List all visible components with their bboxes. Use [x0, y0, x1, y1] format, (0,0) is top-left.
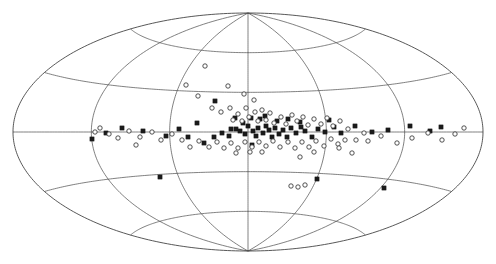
data-point-open-circle — [290, 113, 294, 117]
data-point-open-circle — [314, 139, 318, 143]
data-point-open-circle — [250, 145, 254, 149]
data-point-filled-square — [213, 99, 217, 103]
data-point-open-circle — [298, 155, 302, 159]
data-point-open-circle — [253, 110, 257, 114]
scatter-points-group — [90, 64, 466, 190]
data-point-filled-square — [243, 132, 247, 136]
graticule-group — [13, 13, 483, 251]
data-point-open-circle — [379, 134, 383, 138]
data-point-filled-square — [303, 129, 307, 133]
data-point-open-circle — [462, 126, 466, 130]
data-point-open-circle — [196, 94, 200, 98]
data-point-open-circle — [271, 139, 275, 143]
all-sky-map-canvas — [0, 0, 496, 264]
data-point-filled-square — [229, 127, 233, 131]
data-point-filled-square — [251, 129, 255, 133]
data-point-open-circle — [228, 106, 232, 110]
data-point-open-circle — [231, 118, 235, 122]
data-point-open-circle — [256, 119, 260, 123]
data-point-open-circle — [215, 140, 219, 144]
data-point-filled-square — [195, 121, 199, 125]
data-point-open-circle — [98, 126, 102, 130]
data-point-open-circle — [248, 150, 252, 154]
data-point-filled-square — [408, 124, 412, 128]
data-point-open-circle — [247, 115, 251, 119]
data-point-filled-square — [177, 127, 181, 131]
data-point-open-circle — [210, 106, 214, 110]
data-point-open-circle — [150, 130, 154, 134]
data-point-open-circle — [244, 106, 248, 110]
data-point-filled-square — [353, 124, 357, 128]
data-point-open-circle — [243, 140, 247, 144]
data-point-open-circle — [159, 138, 163, 142]
data-point-filled-square — [323, 130, 327, 134]
data-point-open-circle — [107, 132, 111, 136]
data-point-open-circle — [138, 135, 142, 139]
data-point-open-circle — [240, 119, 244, 123]
data-point-filled-square — [212, 135, 216, 139]
data-point-filled-square — [234, 127, 238, 131]
data-point-filled-square — [246, 124, 250, 128]
data-point-filled-square — [261, 131, 265, 135]
data-point-open-circle — [134, 143, 138, 147]
data-point-filled-square — [439, 125, 443, 129]
data-point-open-circle — [272, 121, 276, 125]
data-point-open-circle — [319, 122, 323, 126]
data-point-open-circle — [325, 116, 329, 120]
data-point-open-circle — [286, 140, 290, 144]
data-point-open-circle — [284, 122, 288, 126]
data-point-filled-square — [264, 124, 268, 128]
data-point-open-circle — [295, 119, 299, 123]
data-point-filled-square — [382, 186, 386, 190]
data-point-filled-square — [90, 137, 94, 141]
data-point-open-circle — [203, 64, 207, 68]
data-point-filled-square — [256, 126, 260, 130]
data-point-open-circle — [312, 117, 316, 121]
data-point-open-circle — [306, 123, 310, 127]
data-point-filled-square — [120, 126, 124, 130]
data-point-filled-square — [254, 134, 258, 138]
data-point-open-circle — [300, 140, 304, 144]
data-point-open-circle — [303, 183, 307, 187]
data-point-filled-square — [315, 177, 319, 181]
data-point-open-circle — [301, 115, 305, 119]
data-point-filled-square — [286, 117, 290, 121]
data-point-filled-square — [158, 175, 162, 179]
data-point-open-circle — [268, 111, 272, 115]
all-sky-map-figure — [0, 0, 496, 264]
data-point-filled-square — [339, 131, 343, 135]
data-point-open-circle — [184, 83, 188, 87]
data-point-open-circle — [207, 145, 211, 149]
data-point-open-circle — [127, 129, 131, 133]
data-point-open-circle — [242, 92, 246, 96]
data-point-open-circle — [278, 145, 282, 149]
data-point-open-circle — [170, 132, 174, 136]
data-point-open-circle — [322, 144, 326, 148]
data-point-filled-square — [370, 130, 374, 134]
data-point-filled-square — [238, 129, 242, 133]
data-point-open-circle — [346, 127, 350, 131]
data-point-open-circle — [264, 118, 268, 122]
data-point-filled-square — [281, 128, 285, 132]
data-point-open-circle — [331, 124, 335, 128]
data-point-open-circle — [350, 151, 354, 155]
data-point-filled-square — [316, 127, 320, 131]
data-point-filled-square — [310, 135, 314, 139]
data-point-open-circle — [410, 136, 414, 140]
data-point-open-circle — [296, 185, 300, 189]
data-point-open-circle — [426, 131, 430, 135]
data-point-open-circle — [236, 112, 240, 116]
data-point-filled-square — [141, 129, 145, 133]
data-point-open-circle — [366, 139, 370, 143]
data-point-filled-square — [267, 128, 271, 132]
data-point-filled-square — [220, 131, 224, 135]
data-point-open-circle — [343, 138, 347, 142]
data-point-filled-square — [299, 125, 303, 129]
data-point-open-circle — [226, 84, 230, 88]
data-point-open-circle — [229, 141, 233, 145]
data-point-open-circle — [264, 144, 268, 148]
data-point-open-circle — [116, 136, 120, 140]
data-point-open-circle — [453, 132, 457, 136]
data-point-filled-square — [289, 126, 293, 130]
data-point-open-circle — [234, 151, 238, 155]
